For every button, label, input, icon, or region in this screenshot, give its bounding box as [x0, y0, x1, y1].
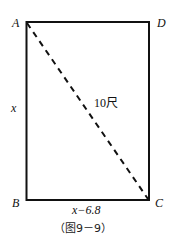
- vertex-b-label: B: [12, 196, 20, 210]
- figure-caption: （图9－9）: [54, 222, 112, 235]
- side-ab-label: x: [10, 101, 17, 115]
- diagonal-ac: [27, 23, 148, 199]
- diagonal-label: 10尺: [94, 96, 118, 110]
- side-bc-label: x−6.8: [71, 203, 100, 217]
- vertex-a-label: A: [11, 16, 20, 30]
- rectangle-diagram: A D B C x 10尺 x−6.8 （图9－9）: [0, 0, 177, 247]
- vertex-c-label: C: [155, 196, 164, 210]
- rectangle-abcd: [27, 22, 150, 200]
- vertex-d-label: D: [156, 16, 166, 30]
